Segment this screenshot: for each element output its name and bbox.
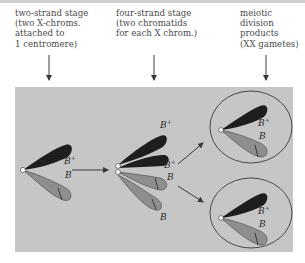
svg-text:B+: B+ xyxy=(257,116,270,128)
gamete-product-top: B+ B xyxy=(210,91,292,163)
diagonal-arrow-down-icon xyxy=(178,186,203,202)
svg-text:B+: B+ xyxy=(257,204,270,216)
two-strand-chromosomes: B+ B xyxy=(20,145,75,201)
centromere xyxy=(116,170,121,175)
chromosome-diagram: B+ B B+ B+ B B B+ B xyxy=(0,0,305,263)
svg-text:B: B xyxy=(159,212,167,222)
svg-text:B: B xyxy=(258,219,266,229)
gamete-product-bottom: B+ B xyxy=(210,178,292,248)
centromere xyxy=(20,167,25,172)
svg-text:B+: B+ xyxy=(163,158,176,170)
diagonal-arrow-up-icon xyxy=(178,143,203,164)
svg-text:B+: B+ xyxy=(159,118,172,130)
svg-text:B: B xyxy=(258,131,266,141)
four-strand-chromatids: B+ B+ B B xyxy=(116,118,176,222)
centromere xyxy=(219,128,224,133)
centromere xyxy=(116,164,121,169)
svg-text:B+: B+ xyxy=(63,154,76,166)
svg-text:B: B xyxy=(64,170,72,180)
centromere xyxy=(219,216,224,221)
svg-text:B: B xyxy=(166,172,174,182)
